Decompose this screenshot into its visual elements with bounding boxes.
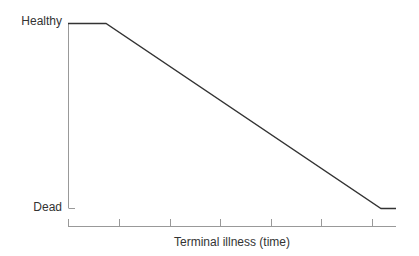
health-decline-line [68,24,396,209]
y-label-healthy: Healthy [21,14,62,28]
y-label-dead: Dead [33,200,62,214]
x-axis-title: Terminal illness (time) [0,235,419,249]
line-chart [0,0,419,256]
x-ticks [69,219,373,227]
